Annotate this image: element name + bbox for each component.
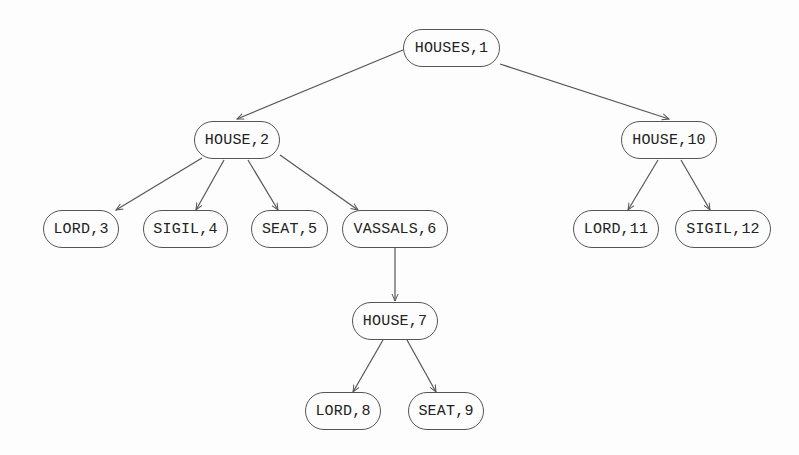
tree-node-lord-11[interactable]: LORD,11 bbox=[573, 210, 659, 248]
tree-diagram: HOUSES,1HOUSE,2HOUSE,10LORD,3SIGIL,4SEAT… bbox=[0, 0, 799, 455]
edge-arrow bbox=[237, 50, 403, 119]
node-label: HOUSE,7 bbox=[363, 313, 427, 330]
tree-node-sigil-12[interactable]: SIGIL,12 bbox=[675, 210, 771, 248]
node-label: SEAT,5 bbox=[262, 221, 317, 238]
edge-arrow bbox=[681, 160, 710, 210]
edge-arrow bbox=[500, 64, 669, 119]
node-label: SEAT,9 bbox=[418, 403, 473, 420]
node-label: HOUSES,1 bbox=[415, 40, 489, 57]
node-label: HOUSE,10 bbox=[632, 132, 706, 149]
edge-arrow bbox=[196, 160, 224, 210]
edge-arrow bbox=[628, 160, 658, 210]
edge-arrow bbox=[116, 158, 202, 210]
tree-node-sigil-4[interactable]: SIGIL,4 bbox=[143, 210, 228, 248]
tree-node-house-2[interactable]: HOUSE,2 bbox=[194, 121, 280, 159]
tree-node-house-10[interactable]: HOUSE,10 bbox=[621, 121, 717, 159]
tree-node-houses-1[interactable]: HOUSES,1 bbox=[403, 29, 500, 67]
node-label: LORD,3 bbox=[53, 221, 108, 238]
edge-arrow bbox=[407, 340, 436, 392]
node-label: SIGIL,12 bbox=[686, 221, 760, 238]
edge-arrow bbox=[280, 155, 358, 210]
node-label: SIGIL,4 bbox=[153, 221, 217, 238]
edge-arrow bbox=[353, 340, 383, 392]
node-label: LORD,8 bbox=[315, 403, 370, 420]
edge-arrow bbox=[248, 160, 278, 210]
node-label: HOUSE,2 bbox=[205, 132, 269, 149]
tree-node-lord-3[interactable]: LORD,3 bbox=[43, 210, 119, 248]
node-label: VASSALS,6 bbox=[354, 221, 437, 238]
node-label: LORD,11 bbox=[584, 221, 648, 238]
tree-node-lord-8[interactable]: LORD,8 bbox=[305, 392, 381, 430]
tree-node-house-7[interactable]: HOUSE,7 bbox=[352, 302, 438, 340]
tree-node-seat-9[interactable]: SEAT,9 bbox=[408, 392, 484, 430]
tree-node-seat-5[interactable]: SEAT,5 bbox=[251, 210, 328, 248]
tree-node-vassals-6[interactable]: VASSALS,6 bbox=[342, 210, 448, 248]
